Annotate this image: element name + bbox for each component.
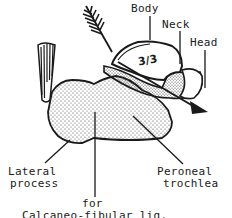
peroneal-trochlea-label-line2: trochlea (163, 178, 218, 189)
feathered-arrow-icon (83, 6, 112, 52)
lateral-process-label-line1: Lateral (8, 166, 56, 177)
talus-diagram: 3/3 Body Neck Head Lateral process Peron… (0, 0, 232, 218)
neck-label: Neck (162, 19, 190, 30)
lateral-process-leader-line (45, 140, 70, 163)
calcaneo-fibular-ligament-label: Calcaneo-fibular lig. (22, 210, 167, 218)
for-label: for (82, 198, 103, 209)
body-label: Body (131, 3, 159, 14)
lateral-process-label-line2: process (10, 178, 58, 189)
head-label: Head (190, 37, 218, 48)
peroneal-trochlea-label-line1: Peroneal (157, 166, 212, 177)
